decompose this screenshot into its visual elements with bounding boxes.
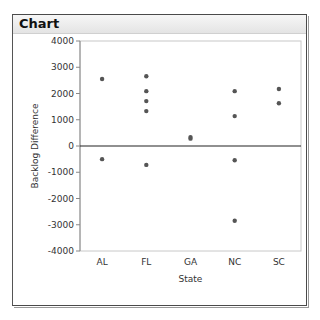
data-point (144, 109, 148, 113)
y-tick-label: 2000 (51, 89, 74, 99)
data-point (233, 158, 237, 162)
y-tick-label: 0 (68, 141, 74, 151)
y-axis-title: Backlog Difference (30, 103, 40, 188)
y-tick-label: -2000 (48, 194, 74, 204)
x-tick-label: FL (141, 257, 151, 267)
y-tick-label: -3000 (48, 220, 74, 230)
x-tick-label: SC (273, 257, 285, 267)
data-point (100, 77, 104, 81)
data-point (100, 157, 104, 161)
x-tick-label: AL (97, 257, 108, 267)
data-point (188, 136, 192, 140)
data-point (144, 163, 148, 167)
data-point (144, 74, 148, 78)
data-point (233, 219, 237, 223)
data-point (144, 99, 148, 103)
data-point (277, 87, 281, 91)
data-point (233, 114, 237, 118)
data-point (233, 89, 237, 93)
data-point (277, 101, 281, 105)
y-tick-label: -4000 (48, 246, 74, 256)
x-tick-label: GA (184, 257, 198, 267)
y-tick-label: 4000 (51, 36, 74, 46)
y-tick-label: -1000 (48, 167, 74, 177)
y-tick-label: 1000 (51, 115, 74, 125)
data-point (144, 89, 148, 93)
y-tick-label: 3000 (51, 62, 74, 72)
scatter-chart: 40003000200010000-1000-2000-3000-4000ALF… (0, 0, 320, 320)
x-axis-title: State (179, 274, 203, 284)
x-tick-label: NC (228, 257, 241, 267)
